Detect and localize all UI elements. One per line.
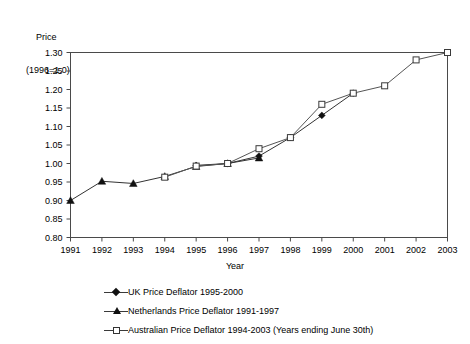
legend-label-uk: UK Price Deflator 1995-2000: [128, 287, 243, 298]
data-point-marker: [413, 57, 419, 63]
y-axis-tick-label: 1.25: [45, 66, 63, 76]
chart-legend: UK Price Deflator 1995-2000 Netherlands …: [104, 283, 444, 340]
data-point-marker: [193, 163, 199, 169]
y-axis-tick-label: 1.00: [45, 159, 63, 169]
x-axis-tick-label: 2001: [375, 245, 395, 255]
data-point-marker: [98, 177, 106, 184]
data-point-marker: [287, 135, 293, 141]
x-axis-tick-label: 1997: [249, 245, 269, 255]
legend-label-netherlands: Netherlands Price Deflator 1991-1997: [128, 306, 279, 317]
y-axis-tick-label: 1.10: [45, 122, 63, 132]
y-axis-tick-label: 0.80: [45, 233, 63, 243]
data-point-marker: [382, 83, 388, 89]
triangle-marker-icon: [104, 306, 128, 318]
x-axis-tick-label: 2002: [406, 245, 426, 255]
x-axis-tick-label: 1992: [92, 245, 112, 255]
y-axis-tick-label: 1.20: [45, 85, 63, 95]
legend-item-uk: UK Price Deflator 1995-2000: [104, 283, 444, 302]
x-axis-tick-label: 1995: [186, 245, 206, 255]
series-line-2: [165, 53, 448, 178]
legend-item-australian: Australian Price Deflator 1994-2003 (Yea…: [104, 321, 444, 340]
legend-label-australian: Australian Price Deflator 1994-2003 (Yea…: [128, 325, 373, 336]
x-axis-tick-label: 2003: [437, 245, 457, 255]
x-axis-tick-label: 1996: [218, 245, 238, 255]
data-point-marker: [256, 146, 262, 152]
y-axis-tick-label: 1.05: [45, 140, 63, 150]
x-axis-tick-label: 1999: [312, 245, 332, 255]
y-axis-tick-label: 0.85: [45, 214, 63, 224]
x-axis-tick-label: 1991: [60, 245, 80, 255]
x-axis-title: Year: [0, 261, 470, 272]
price-deflator-line-chart: Price (1996=1.0) 0.800.850.900.951.001.0…: [0, 0, 470, 344]
y-axis-tick-label: 1.15: [45, 103, 63, 113]
x-axis-tick-label: 1994: [155, 245, 175, 255]
x-axis-tick-label: 1993: [123, 245, 143, 255]
y-axis-tick-label: 0.95: [45, 177, 63, 187]
plot-area: 0.800.850.900.951.001.051.101.151.201.25…: [0, 0, 470, 270]
y-axis-tick-label: 1.30: [45, 48, 63, 58]
data-point-marker: [350, 90, 356, 96]
series-line-0: [196, 93, 353, 165]
data-point-marker: [225, 161, 231, 167]
data-point-marker: [319, 101, 325, 107]
legend-item-netherlands: Netherlands Price Deflator 1991-1997: [104, 302, 444, 321]
x-axis-tick-label: 2000: [343, 245, 363, 255]
x-axis-tick-label: 1998: [280, 245, 300, 255]
data-point-marker: [162, 174, 168, 180]
open-square-marker-icon: [104, 325, 128, 337]
data-point-marker: [318, 112, 325, 119]
y-axis-tick-label: 0.90: [45, 196, 63, 206]
data-point-marker: [445, 50, 451, 56]
diamond-marker-icon: [104, 287, 128, 299]
